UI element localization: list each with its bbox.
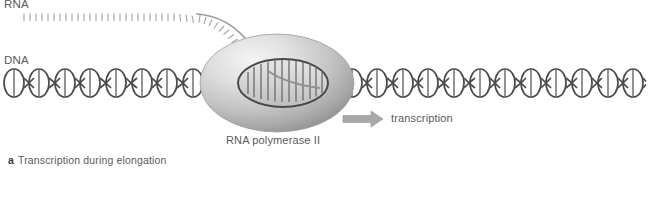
transcription-direction-arrow bbox=[343, 111, 383, 127]
transcription-bubble bbox=[238, 59, 328, 107]
figure-root: RNA DNA RNA polymerase II transcription … bbox=[0, 0, 649, 199]
dna-helix-left bbox=[4, 69, 228, 97]
rna-polymerase-label: RNA polymerase II bbox=[226, 135, 320, 146]
rna-label: RNA bbox=[4, 0, 29, 11]
transcription-arrow-label: transcription bbox=[391, 113, 453, 124]
transcription-diagram bbox=[0, 0, 649, 199]
dna-helix-right bbox=[342, 69, 646, 97]
panel-caption: aTranscription during elongation bbox=[8, 155, 166, 166]
panel-letter: a bbox=[8, 154, 14, 166]
dna-label: DNA bbox=[4, 55, 29, 67]
panel-caption-text: Transcription during elongation bbox=[18, 154, 166, 166]
